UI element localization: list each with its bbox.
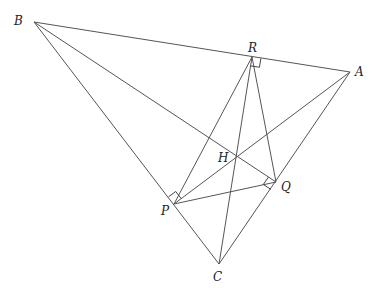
segment-AP [174,72,350,204]
geometry-diagram: A B C R H Q P [0,0,382,292]
triangle-figure: A B C R H Q P [0,0,382,292]
segment-QR [252,57,276,182]
segment-BQ [34,22,276,182]
label-C: C [213,270,222,284]
label-Q: Q [281,180,291,194]
right-angle-marks [169,58,271,198]
segment-CA [219,72,350,264]
label-A: A [354,65,364,79]
segment-BA [34,22,350,72]
label-H: H [217,151,229,165]
label-P: P [160,204,170,218]
segment-BC [34,22,219,264]
label-R: R [247,41,257,55]
segments [34,22,350,264]
point-labels: A B C R H Q P [13,14,364,284]
label-B: B [13,14,23,28]
